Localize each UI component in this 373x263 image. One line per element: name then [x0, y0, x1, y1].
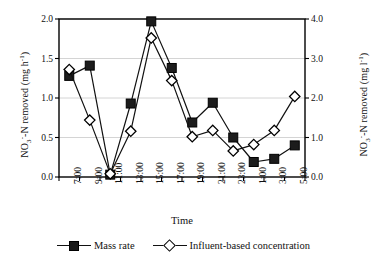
- x-axis-ticklabel: 5:00: [299, 167, 309, 184]
- filled-square-icon: [69, 241, 79, 251]
- y-axis-right-ticklabel: 2.0: [311, 93, 337, 103]
- gridlines: [59, 19, 305, 138]
- x-axis-ticklabel: 1:00: [258, 167, 268, 184]
- y-axis-left-ticklabel: 2.0: [27, 14, 53, 24]
- y-axis-left-ticklabel: 1.5: [27, 54, 53, 64]
- x-axis-ticklabel: 3:00: [278, 167, 288, 184]
- legend-label-mass-rate: Mass rate: [94, 240, 135, 251]
- x-axis-ticklabel: 7:00: [73, 167, 83, 184]
- x-axis-ticklabel: 15:00: [155, 162, 165, 184]
- x-axis-ticklabel: 13:00: [135, 162, 145, 184]
- open-diamond-icon: [163, 239, 176, 252]
- y-axis-right-ticklabel: 3.0: [311, 54, 337, 64]
- x-axis-ticklabel: 21:00: [217, 162, 227, 184]
- x-axis-ticklabel: 19:00: [196, 162, 206, 184]
- y-axis-left-ticklabel: 1.0: [27, 93, 53, 103]
- x-axis-ticklabel: 9:00: [94, 167, 104, 184]
- y-axis-right-ticklabel: 4.0: [311, 14, 337, 24]
- y-axis-right-ticklabel: 1.0: [311, 133, 337, 143]
- x-axis-ticklabel: 11:00: [114, 163, 124, 184]
- chart-legend: Mass rate Influent-based concentration: [0, 240, 367, 251]
- y-axis-right-ticklabel: 0.0: [311, 172, 337, 182]
- y-axis-left-ticklabel: 0.0: [27, 172, 53, 182]
- x-axis-ticklabel: 17:00: [176, 162, 186, 184]
- legend-label-influent-based-concentration: Influent-based concentration: [190, 240, 310, 251]
- y-axis-left-ticklabel: 0.5: [27, 133, 53, 143]
- x-axis-ticklabel: 23:00: [237, 162, 247, 184]
- legend-item-mass-rate: Mass rate: [57, 240, 135, 251]
- legend-line-influent-based-concentration: [153, 245, 187, 246]
- legend-line-mass-rate: [57, 245, 91, 246]
- legend-item-influent-based-concentration: Influent-based concentration: [153, 240, 310, 251]
